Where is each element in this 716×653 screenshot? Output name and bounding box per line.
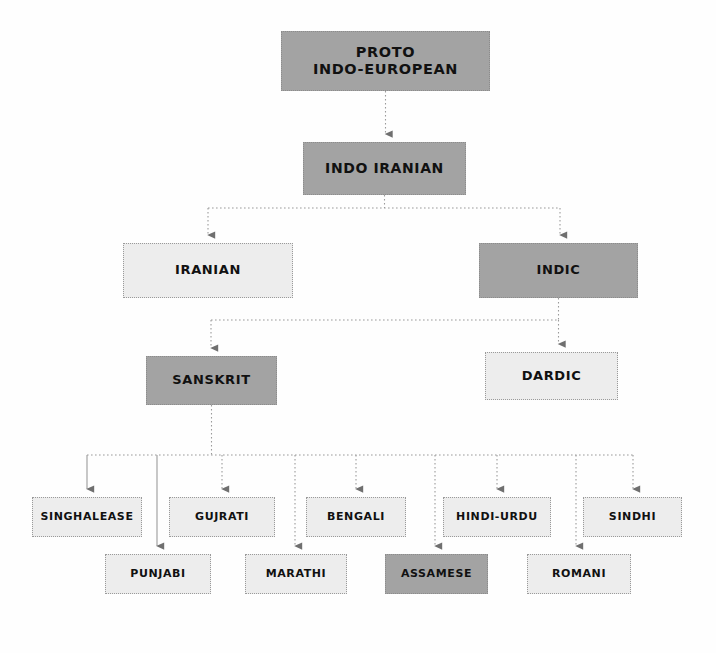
node-gujrati[interactable]: GUJRATI [169, 497, 275, 537]
node-marathi[interactable]: MARATHI [245, 554, 347, 594]
node-sindhi[interactable]: SINDHI [583, 497, 682, 537]
node-label: GUJRATI [195, 511, 249, 524]
node-label: SINDHI [609, 511, 656, 524]
node-label: HINDI-URDU [456, 511, 538, 524]
node-iranian[interactable]: IRANIAN [123, 243, 293, 298]
node-indo-iranian[interactable]: INDO IRANIAN [303, 142, 466, 195]
node-label: MARATHI [266, 568, 327, 581]
node-dardic[interactable]: DARDIC [485, 352, 618, 400]
diagram-canvas: PROTO INDO-EUROPEAN INDO IRANIAN IRANIAN… [0, 0, 716, 653]
node-label: BENGALI [327, 511, 385, 524]
node-assamese[interactable]: ASSAMESE [385, 554, 488, 594]
node-punjabi[interactable]: PUNJABI [105, 554, 211, 594]
node-label: INDO IRANIAN [325, 160, 444, 176]
node-label: SINGHALEASE [40, 511, 133, 524]
node-label: SANSKRIT [172, 373, 250, 388]
node-label: IRANIAN [175, 263, 241, 278]
node-label: PROTO INDO-EUROPEAN [313, 44, 458, 77]
node-indic[interactable]: INDIC [479, 243, 638, 298]
node-label: DARDIC [522, 369, 582, 384]
node-label: ROMANI [552, 568, 606, 581]
node-proto-indo-european[interactable]: PROTO INDO-EUROPEAN [281, 31, 490, 91]
node-singhalease[interactable]: SINGHALEASE [32, 497, 142, 537]
node-label: INDIC [537, 263, 581, 278]
node-label: ASSAMESE [401, 568, 472, 581]
node-sanskrit[interactable]: SANSKRIT [146, 356, 277, 405]
node-label: PUNJABI [130, 568, 185, 581]
node-hindi-urdu[interactable]: HINDI-URDU [443, 497, 551, 537]
node-bengali[interactable]: BENGALI [306, 497, 406, 537]
node-romani[interactable]: ROMANI [527, 554, 631, 594]
